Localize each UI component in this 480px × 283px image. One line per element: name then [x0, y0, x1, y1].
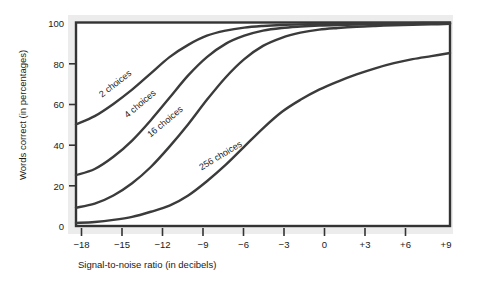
y-axis-title: Words correct (in percentages) — [17, 50, 28, 180]
y-tick-label: 0 — [59, 221, 64, 232]
plot-frame — [76, 23, 450, 227]
x-axis-title: Signal-to-noise ratio (in decibels) — [78, 259, 216, 270]
x-tick-label: 0 — [322, 239, 327, 250]
y-tick-label: 60 — [53, 99, 64, 110]
x-tick-label: +3 — [360, 239, 371, 250]
x-tick-label: +6 — [400, 239, 411, 250]
y-tick-label: 40 — [53, 140, 64, 151]
x-tick-label: −18 — [73, 239, 89, 250]
y-tick-label: 80 — [53, 59, 64, 70]
x-tick-label: +9 — [441, 239, 452, 250]
chart-figure: 100 80 60 40 20 0 −18 −15 −12 −9 −6 −3 — [0, 0, 480, 283]
line-chart: 100 80 60 40 20 0 −18 −15 −12 −9 −6 −3 — [0, 0, 480, 283]
x-tick-label: −12 — [154, 239, 170, 250]
y-tick-label: 100 — [48, 18, 64, 29]
x-tick-label: −9 — [198, 239, 209, 250]
y-axis-tick-labels: 100 80 60 40 20 0 — [48, 18, 64, 232]
x-tick-label: −15 — [114, 239, 130, 250]
x-tick-label: −6 — [238, 239, 249, 250]
x-axis-tick-labels: −18 −15 −12 −9 −6 −3 0 +3 +6 +9 — [73, 239, 451, 250]
x-tick-label: −3 — [279, 239, 290, 250]
y-tick-label: 20 — [53, 181, 64, 192]
